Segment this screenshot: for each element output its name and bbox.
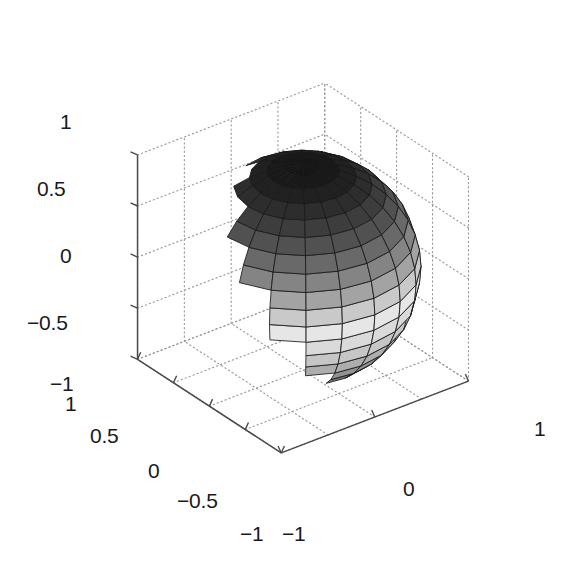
sphere-mesh-face [273, 254, 306, 274]
x-axis-tick-label-0: −1 [282, 523, 306, 544]
z-axis-tick-label-1: 0.5 [37, 178, 66, 199]
y-axis-tick-label-0: 1 [65, 393, 76, 414]
z-axis-tick-label-2: 0 [60, 245, 71, 266]
x-axis-tick-label-2: 1 [534, 418, 545, 439]
sphere-3d-plot [0, 0, 562, 565]
z-axis-tick-label-4: −1 [50, 373, 74, 394]
sphere-mesh-face [269, 325, 306, 343]
sphere-mesh-face [306, 253, 339, 274]
sphere-mesh-face [271, 272, 306, 293]
sphere-mesh-face [269, 308, 306, 327]
z-axis-tick-label-3: −0.5 [27, 312, 68, 333]
sphere-surface-mesh [227, 150, 421, 383]
sphere-mesh-face [279, 219, 305, 238]
sphere-mesh-face [270, 290, 306, 310]
matlab-figure-window: 10.50−0.5−110.50−0.5−1−101 [0, 0, 562, 565]
sphere-mesh-face [306, 271, 341, 292]
sphere-mesh-face [276, 236, 306, 256]
y-axis-tick-label-4: −1 [240, 523, 264, 544]
y-axis-tick-label-2: 0 [148, 460, 159, 481]
z-axis-tick-label-0: 1 [60, 111, 71, 132]
sphere-mesh-face [306, 289, 342, 310]
sphere-mesh-face [305, 235, 335, 256]
y-axis-tick-label-3: −0.5 [177, 490, 218, 511]
y-axis-tick-label-1: 0.5 [90, 425, 119, 446]
x-axis-tick-label-1: 0 [403, 478, 414, 499]
